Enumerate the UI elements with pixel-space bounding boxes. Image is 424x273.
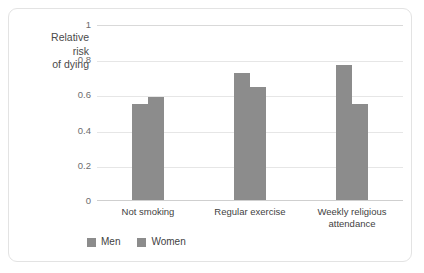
y-tick-label: 0.6 [61, 90, 91, 100]
legend-label: Women [151, 237, 185, 247]
legend-item-men[interactable]: Men [87, 237, 120, 247]
bar-group [199, 26, 301, 201]
bar-men [336, 65, 352, 201]
bar-men [132, 104, 148, 201]
chart-card: Relative risk of dying 00.20.40.60.81 No… [8, 8, 412, 262]
category-label: Not smoking [97, 206, 199, 218]
bar-women [352, 104, 368, 201]
y-tick-label: 1 [61, 20, 91, 30]
y-tick-label: 0.4 [61, 126, 91, 136]
legend-swatch-icon [137, 238, 146, 247]
legend-item-women[interactable]: Women [137, 237, 185, 247]
y-tick-label: 0.8 [61, 55, 91, 65]
plot-area [97, 25, 403, 201]
y-tick-label: 0 [61, 196, 91, 206]
bar-women [148, 97, 164, 201]
bar-group [301, 26, 403, 201]
bar-women [250, 87, 266, 201]
x-axis-line [97, 200, 403, 201]
bar-men [234, 73, 250, 201]
y-tick-label: 0.2 [61, 161, 91, 171]
legend-label: Men [101, 237, 120, 247]
category-label: Weekly religious attendance [301, 206, 403, 229]
legend: MenWomen [87, 237, 186, 247]
category-label: Regular exercise [199, 206, 301, 218]
bar-group [97, 26, 199, 201]
y-axis-title: Relative risk of dying [13, 31, 89, 72]
legend-swatch-icon [87, 238, 96, 247]
